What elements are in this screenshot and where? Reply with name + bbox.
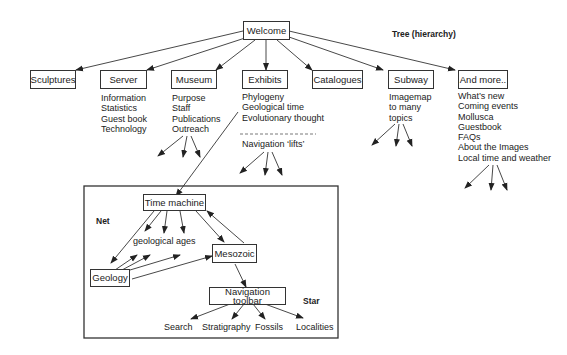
list-item: Evolutionary thought — [242, 113, 324, 123]
list-item: Technology — [101, 124, 147, 134]
server-children: Information Statistics Guest book Techno… — [101, 93, 147, 134]
node-welcome: Welcome — [243, 21, 290, 40]
list-item: About the Images — [458, 142, 551, 152]
diagram-title: Tree (hierarchy) — [392, 29, 456, 39]
node-mesozoic: Mesozoic — [212, 244, 257, 263]
list-item: Imagemap — [389, 92, 432, 102]
list-item: Guestbook — [458, 122, 551, 132]
node-time-machine: Time machine — [143, 194, 206, 211]
toolbar-item-stratigraphy: Stratigraphy — [202, 322, 251, 332]
list-item: FAQs — [458, 132, 551, 142]
star-label: Star — [303, 296, 320, 306]
list-item: to many — [389, 102, 432, 112]
exhibits-children: Phylogeny Geological time Evolutionary t… — [242, 92, 324, 123]
node-exhibits: Exhibits — [242, 70, 288, 89]
list-item: Staff — [172, 103, 221, 113]
node-server: Server — [100, 70, 147, 89]
node-geology: Geology — [90, 269, 130, 287]
toolbar-item-fossils: Fossils — [255, 322, 283, 332]
node-navigation-toolbar: Navigation toolbar — [209, 287, 286, 305]
navigation-lifts-label: Navigation ‘lifts’ — [242, 139, 305, 149]
list-item: Mollusca — [458, 112, 551, 122]
list-item: Purpose — [172, 93, 221, 103]
list-item: Local time and weather — [458, 153, 551, 163]
list-item: Outreach — [172, 124, 221, 134]
list-item: topics — [389, 113, 432, 123]
net-label: Net — [96, 216, 110, 226]
and-more-children: What’s new Coming events Mollusca Guestb… — [458, 91, 551, 163]
toolbar-item-localities: Localities — [296, 322, 334, 332]
list-item: What’s new — [458, 91, 551, 101]
node-and-more: And more.. — [458, 70, 508, 89]
list-item: Publications — [172, 114, 221, 124]
list-item: Coming events — [458, 101, 551, 111]
list-item: Geological time — [242, 102, 324, 112]
list-item: Information — [101, 93, 147, 103]
geological-ages-label: geological ages — [133, 236, 196, 246]
node-sculptures: Sculptures — [30, 70, 76, 89]
node-catalogues: Catalogues — [312, 70, 363, 89]
node-subway: Subway — [388, 70, 434, 89]
subway-children: Imagemap to many topics — [389, 92, 432, 123]
toolbar-item-search: Search — [164, 322, 193, 332]
museum-children: Purpose Staff Publications Outreach — [172, 93, 221, 134]
list-item: Phylogeny — [242, 92, 324, 102]
node-museum: Museum — [171, 70, 217, 89]
list-item: Statistics — [101, 103, 147, 113]
list-item: Guest book — [101, 114, 147, 124]
